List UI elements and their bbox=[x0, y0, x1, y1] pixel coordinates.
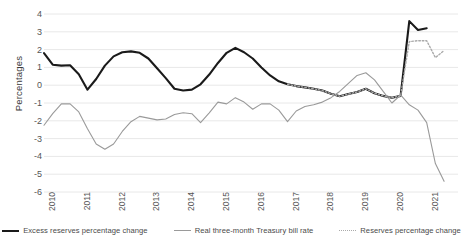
x-axis-tick-label: 2011 bbox=[83, 192, 92, 210]
line-chart: Percentages 43210-1-2-3-4-5-6 2010201120… bbox=[0, 0, 463, 241]
x-axis-tick-label: 2016 bbox=[257, 192, 266, 211]
x-axis-tick-label: 2019 bbox=[361, 192, 370, 211]
line-solid-black-icon bbox=[2, 227, 19, 233]
line-dotted-gray-icon bbox=[339, 227, 356, 233]
y-axis-tick-label: 3 bbox=[20, 27, 42, 36]
y-axis-tick-labels: 43210-1-2-3-4-5-6 bbox=[10, 0, 42, 241]
x-axis-tick-label: 2017 bbox=[292, 192, 301, 211]
series-lines bbox=[44, 21, 444, 181]
x-axis-tick-label: 2010 bbox=[48, 192, 57, 211]
legend-item[interactable]: Reserves percentage change bbox=[339, 226, 461, 235]
y-axis-tick-label: -3 bbox=[20, 134, 42, 143]
plot-area bbox=[44, 14, 458, 192]
y-axis-tick-label: -1 bbox=[20, 99, 42, 108]
y-axis-tick-label: 1 bbox=[20, 63, 42, 72]
y-axis-tick-label: -2 bbox=[20, 116, 42, 125]
x-axis-tick-label: 2013 bbox=[152, 192, 161, 211]
gridlines bbox=[44, 14, 458, 192]
y-axis-tick-label: -6 bbox=[20, 188, 42, 197]
legend-item-label: Reserves percentage change bbox=[360, 226, 461, 235]
y-axis-tick-label: 4 bbox=[20, 10, 42, 19]
series-line-1 bbox=[44, 21, 427, 98]
x-axis-tick-label: 2012 bbox=[118, 192, 127, 211]
y-axis-tick-label: -4 bbox=[20, 152, 42, 161]
legend-item[interactable]: Excess reserves percentage change bbox=[2, 226, 148, 235]
series-line-2 bbox=[44, 73, 444, 182]
x-axis-tick-label: 2018 bbox=[326, 192, 335, 211]
x-axis-tick-label: 2021 bbox=[431, 192, 440, 211]
line-solid-gray-icon bbox=[174, 227, 191, 233]
y-axis-tick-label: -5 bbox=[20, 170, 42, 179]
y-axis-tick-label: 0 bbox=[20, 81, 42, 90]
x-axis-tick-labels: 2010201120122013201420152016201720182019… bbox=[44, 192, 458, 222]
x-axis-tick-label: 2014 bbox=[187, 192, 196, 211]
plot-svg bbox=[44, 14, 458, 192]
x-axis-tick-label: 2015 bbox=[222, 192, 231, 211]
legend-item-label: Real three-month Treasury bill rate bbox=[195, 226, 314, 235]
chart-legend: Excess reserves percentage changeReal th… bbox=[0, 222, 463, 238]
legend-item-label: Excess reserves percentage change bbox=[23, 226, 148, 235]
y-axis-tick-label: 2 bbox=[20, 45, 42, 54]
x-axis-tick-label: 2020 bbox=[396, 192, 405, 211]
legend-item[interactable]: Real three-month Treasury bill rate bbox=[174, 226, 314, 235]
